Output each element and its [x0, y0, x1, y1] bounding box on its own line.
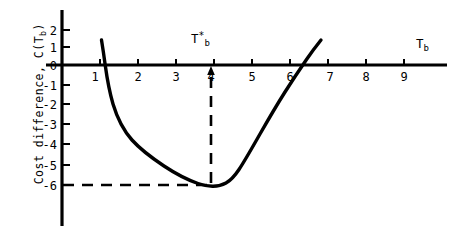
x-axis-title: Tb — [416, 36, 429, 53]
y-tick-label: 0 — [50, 59, 57, 73]
chart-plot-area: 2 1 0 -1 -2 -3 -4 -5 -6 1 2 3 4 — [0, 0, 463, 239]
x-tick-label: 3 — [172, 70, 179, 84]
x-tick-label: 1 — [91, 70, 98, 84]
optimal-label-main: T — [191, 31, 199, 46]
x-axis-tick-labels: 1 2 3 4 5 6 7 8 9 — [91, 70, 407, 84]
chart-figure: 2 1 0 -1 -2 -3 -4 -5 -6 1 2 3 4 — [0, 0, 463, 239]
x-tick-label: 2 — [134, 70, 141, 84]
x-axis-title-sub: b — [424, 43, 429, 53]
y-axis-title-close: ) — [32, 23, 46, 30]
x-tick-label: 7 — [326, 70, 333, 84]
y-tick-label: 1 — [50, 41, 57, 55]
cost-difference-curve — [102, 40, 322, 186]
optimal-point-label: T*b — [191, 31, 210, 48]
optimal-label-sub: b — [204, 38, 209, 48]
y-axis-title: Cost difference, C(Tb) — [32, 0, 47, 214]
x-axis-title-text: T — [416, 36, 424, 51]
x-tick-label: 8 — [362, 70, 369, 84]
x-tick-label: 9 — [400, 70, 407, 84]
y-tick-label: 2 — [50, 24, 57, 38]
y-axis-title-text: Cost difference, C(T — [32, 36, 46, 184]
x-tick-label: 5 — [248, 70, 255, 84]
y-axis-title-sub: b — [38, 30, 48, 35]
